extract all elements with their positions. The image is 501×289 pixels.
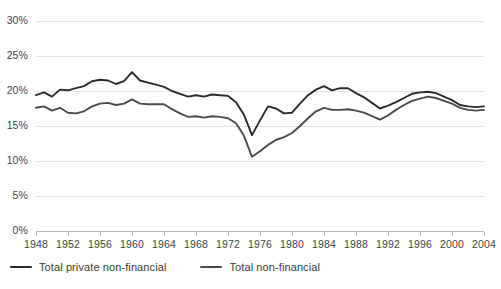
x-tick (324, 232, 325, 236)
x-tick (196, 232, 197, 236)
series-layer (36, 21, 484, 231)
x-tick (68, 232, 69, 236)
x-tick-label: 2004 (464, 238, 501, 250)
y-tick-label: 25% (0, 50, 28, 61)
x-tick (292, 232, 293, 236)
y-tick-label: 15% (0, 120, 28, 131)
y-tick-label: 0% (0, 225, 28, 236)
x-tick (228, 232, 229, 236)
x-tick (356, 232, 357, 236)
legend-label: Total private non-financial (39, 261, 166, 273)
x-tick (100, 232, 101, 236)
legend-item[interactable]: Total private non-financial (10, 261, 166, 273)
x-tick (420, 232, 421, 236)
legend-item[interactable]: Total non-financial (200, 261, 320, 273)
x-tick (388, 232, 389, 236)
x-tick (260, 232, 261, 236)
x-tick (484, 232, 485, 236)
legend-label: Total non-financial (229, 261, 320, 273)
x-tick (36, 232, 37, 236)
plot-area (36, 21, 484, 231)
y-tick-label: 10% (0, 155, 28, 166)
legend-swatch-icon (200, 266, 222, 268)
chart-legend: Total private non-financialTotal non-fin… (10, 261, 320, 273)
legend-swatch-icon (10, 266, 32, 268)
y-tick-label: 20% (0, 85, 28, 96)
y-tick-label: 5% (0, 190, 28, 201)
x-tick (452, 232, 453, 236)
series-line (36, 97, 484, 157)
x-tick (132, 232, 133, 236)
x-tick (164, 232, 165, 236)
y-tick-label: 30% (0, 15, 28, 26)
